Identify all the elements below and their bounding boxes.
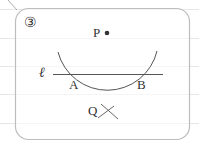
problem-number: ③	[24, 16, 37, 30]
label-p: P	[93, 26, 100, 39]
label-a: A	[69, 78, 78, 91]
pointer-line	[8, 0, 17, 10]
label-line-l: ℓ	[39, 66, 45, 80]
label-b: B	[137, 78, 146, 91]
label-q: Q	[88, 104, 97, 117]
point-p	[105, 31, 110, 36]
